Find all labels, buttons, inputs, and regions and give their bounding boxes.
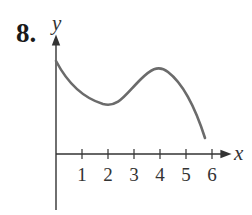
y-axis-label: y: [50, 11, 62, 35]
x-tick-label: 2: [103, 164, 113, 185]
x-tick-label: 3: [129, 164, 139, 185]
x-axis-label: x: [233, 141, 244, 165]
x-tick-label: 6: [207, 164, 217, 185]
plot-area: y x 123456: [0, 0, 252, 215]
function-curve: [56, 61, 205, 138]
x-tick-label: 5: [181, 164, 191, 185]
chart: 8. y x 123456: [0, 0, 252, 215]
x-tick-label: 4: [155, 164, 165, 185]
x-tick-label: 1: [77, 164, 87, 185]
